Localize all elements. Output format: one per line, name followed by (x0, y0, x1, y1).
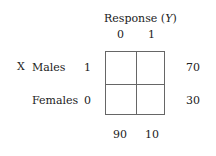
two-by-two-grid (105, 51, 165, 115)
column-total-1: 10 (145, 129, 159, 141)
row-label-males: Males (32, 62, 66, 74)
row-total-females: 30 (186, 95, 200, 107)
column-header-suffix: ) (172, 12, 176, 25)
grid-vertical-divider (136, 52, 137, 114)
row-total-males: 70 (186, 62, 200, 74)
row-value-males: 1 (84, 62, 91, 74)
column-header: Response (Y) (104, 13, 177, 25)
column-value-1: 1 (148, 29, 155, 41)
row-variable-label: X (17, 61, 25, 73)
row-value-females: 0 (84, 95, 91, 107)
column-value-0: 0 (117, 29, 124, 41)
column-total-0: 90 (113, 129, 127, 141)
row-label-females: Females (32, 95, 78, 107)
column-header-prefix: Response ( (104, 12, 165, 25)
grid-horizontal-divider (106, 84, 164, 85)
